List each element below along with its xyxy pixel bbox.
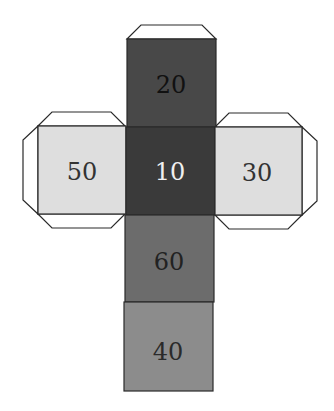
face-left-label: 50 xyxy=(67,158,98,186)
face-bottom-label: 40 xyxy=(153,338,184,366)
tab-left-side xyxy=(23,126,38,214)
tab-left-bottom xyxy=(38,214,125,228)
face-right-label: 30 xyxy=(242,159,273,187)
tab-right-top xyxy=(215,113,302,127)
tab-left-top xyxy=(38,112,125,126)
cube-net-diagram: 20 50 10 30 60 40 xyxy=(0,0,334,411)
tab-right-bottom xyxy=(215,215,302,229)
face-top-label: 20 xyxy=(156,71,187,99)
face-lower-label: 60 xyxy=(154,248,185,276)
tab-top xyxy=(127,25,216,39)
face-center-label: 10 xyxy=(155,158,186,186)
tab-right-side xyxy=(302,127,317,215)
